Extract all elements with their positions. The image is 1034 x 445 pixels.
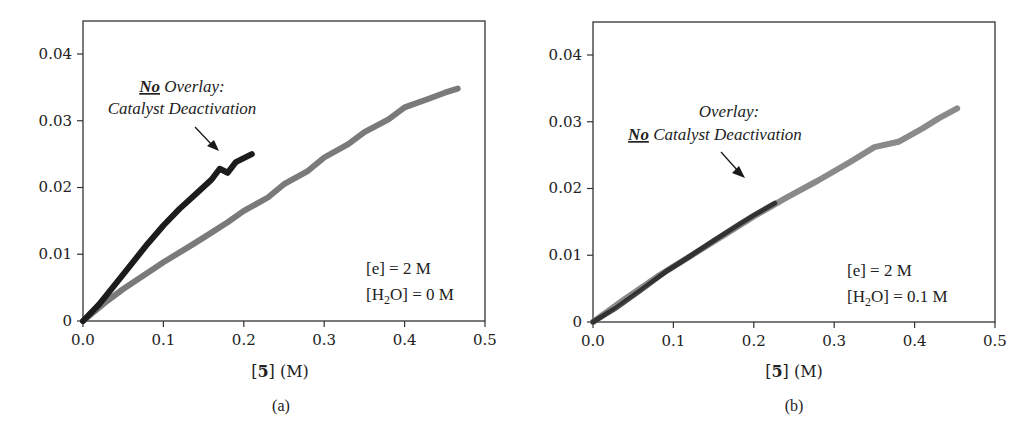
x-tick-label: 0.1 (151, 331, 175, 349)
annotation-no-overlay: No Overlay: Catalyst Deactivation (108, 77, 257, 151)
conditions-box: [e] = 2 M [H2O] = 0.1 M (847, 261, 948, 309)
x-axis-labels: 0.0 0.1 0.2 0.3 0.4 0.5 (581, 332, 1007, 350)
y-tick-label: 0.01 (39, 245, 72, 263)
series-black-line (83, 154, 252, 321)
y-tick-label: 0 (62, 312, 72, 330)
condition-h2o: [H2O] = 0 M (366, 285, 454, 307)
x-axis-title: [5] (M) (251, 362, 309, 381)
x-tick-label: 0.2 (232, 331, 256, 349)
chart-panel-a: 0 0.01 0.02 0.03 0.04 0.0 0.1 0.2 0.3 0.… (0, 0, 517, 445)
chart-a-svg: 0 0.01 0.02 0.03 0.04 0.0 0.1 0.2 0.3 0.… (0, 0, 517, 445)
x-tick-label: 0.4 (393, 331, 417, 349)
annotation-arrow-icon (195, 127, 213, 146)
chart-b-svg: 0 0.01 0.02 0.03 0.04 0.0 0.1 0.2 0.3 0.… (517, 0, 1034, 445)
condition-h2o: [H2O] = 0.1 M (847, 287, 948, 309)
y-axis-labels: 0 0.01 0.02 0.03 0.04 (549, 46, 582, 331)
annotation-line-2: No Catalyst Deactivation (627, 125, 802, 144)
panel-letter: (b) (785, 397, 804, 415)
annotation-overlay: Overlay: No Catalyst Deactivation (627, 102, 802, 178)
y-tick-label: 0.04 (549, 46, 582, 64)
conditions-box: [e] = 2 M [H2O] = 0 M (366, 259, 454, 307)
chart-panel-b: 0 0.01 0.02 0.03 0.04 0.0 0.1 0.2 0.3 0.… (517, 0, 1034, 445)
y-tick-label: 0.02 (549, 179, 582, 197)
y-tick-label: 0.03 (39, 112, 72, 130)
panel-letter: (a) (272, 397, 290, 415)
y-tick-label: 0.01 (549, 246, 582, 264)
condition-e: [e] = 2 M (366, 259, 431, 278)
series-black-line (593, 203, 775, 322)
x-tick-label: 0.0 (71, 331, 95, 349)
x-tick-label: 0.3 (822, 332, 846, 350)
y-tick-label: 0.04 (39, 45, 72, 63)
y-axis-ticks (587, 55, 593, 322)
annotation-line-1: No Overlay: (138, 77, 224, 96)
y-tick-label: 0.03 (549, 113, 582, 131)
x-axis-title: [5] (M) (765, 362, 823, 381)
annotation-arrow-icon (721, 152, 738, 171)
x-axis-ticks (83, 321, 485, 327)
x-tick-label: 0.4 (903, 332, 927, 350)
y-axis-labels: 0 0.01 0.02 0.03 0.04 (39, 45, 72, 330)
x-tick-label: 0.5 (473, 331, 497, 349)
x-axis-ticks (593, 322, 995, 328)
arrowhead-icon (732, 166, 745, 178)
annotation-line-2: Catalyst Deactivation (108, 99, 257, 118)
condition-e: [e] = 2 M (847, 261, 912, 280)
y-axis-ticks (77, 54, 83, 321)
x-tick-label: 0.5 (983, 332, 1007, 350)
y-tick-label: 0 (572, 313, 582, 331)
x-tick-label: 0.1 (661, 332, 685, 350)
annotation-line-1: Overlay: (699, 102, 759, 121)
x-tick-label: 0.0 (581, 332, 605, 350)
x-tick-label: 0.3 (312, 331, 336, 349)
y-tick-label: 0.02 (39, 178, 72, 196)
x-tick-label: 0.2 (742, 332, 766, 350)
x-axis-labels: 0.0 0.1 0.2 0.3 0.4 0.5 (71, 331, 497, 349)
